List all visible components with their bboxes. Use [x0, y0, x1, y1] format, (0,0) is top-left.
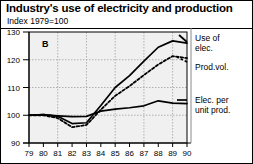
x-tick-label: 79: [25, 149, 34, 158]
y-tick-label: 100: [7, 111, 21, 120]
legend-label-prod-vol: Prod.vol.: [195, 62, 229, 72]
x-tick-label: 87: [139, 149, 148, 158]
line-chart-svg: B 90100110120130 79808182838485868788899…: [1, 28, 253, 164]
chart-card: Industry's use of electricity and produc…: [0, 0, 253, 164]
x-tick-label: 89: [168, 149, 177, 158]
y-tick-label: 110: [7, 84, 20, 93]
legend-label-elec-per-unit-line2: unit prod.: [195, 105, 230, 115]
panel-letter: B: [42, 39, 49, 49]
x-tick-label: 82: [68, 149, 77, 158]
chart-plot-area: B 90100110120130 79808182838485868788899…: [1, 28, 253, 164]
chart-subtitle: Index 1979=100: [7, 16, 68, 26]
x-tick-label: 86: [125, 149, 134, 158]
y-tick-label: 130: [7, 28, 21, 37]
x-tick-label: 84: [96, 149, 105, 158]
legend-label-use-of-elec-line1: Use of: [195, 33, 220, 43]
x-tick-label: 81: [53, 149, 62, 158]
page-title: Industry's use of electricity and produc…: [6, 2, 233, 14]
x-tick-label: 88: [154, 149, 163, 158]
x-tick-label: 83: [82, 149, 91, 158]
x-tick-label: 90: [183, 149, 192, 158]
x-tick-label: 80: [39, 149, 48, 158]
x-axis-ticks: 798081828384858687888990: [25, 143, 192, 158]
y-tick-label: 90: [11, 139, 20, 148]
legend-label-use-of-elec-line2: elec.: [195, 43, 213, 53]
y-axis-ticks: 90100110120130: [7, 28, 29, 148]
x-tick-label: 85: [111, 149, 120, 158]
y-tick-label: 120: [7, 56, 21, 65]
legend-label-elec-per-unit-line1: Elec. per: [195, 95, 229, 105]
